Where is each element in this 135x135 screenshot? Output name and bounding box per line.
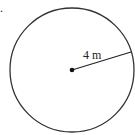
radius-line: [72, 52, 131, 70]
center-point: [70, 68, 75, 73]
circle-diagram: . 4 m: [0, 0, 135, 135]
problem-marker: .: [0, 1, 3, 15]
radius-label: 4 m: [83, 48, 102, 62]
